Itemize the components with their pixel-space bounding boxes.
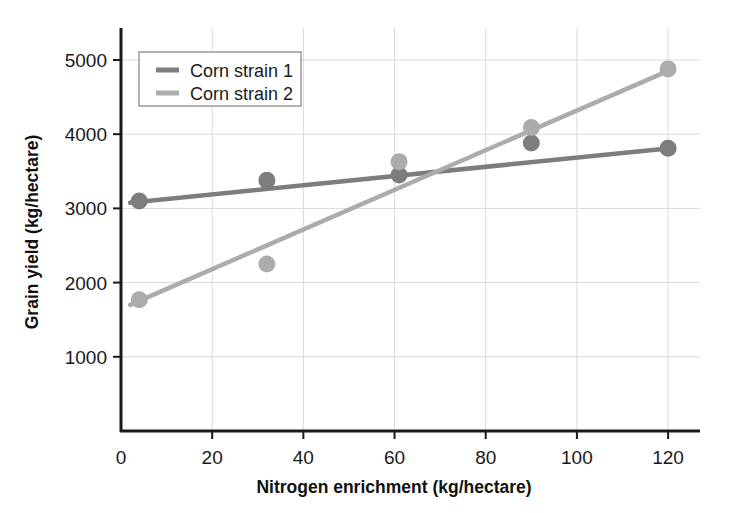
scatter-plot-svg: 10002000300040005000 020406080100120 Gra…	[0, 0, 735, 513]
chart-legend: Corn strain 1 Corn strain 2	[139, 52, 301, 106]
data-point-corn-strain-1	[258, 172, 275, 189]
y-tick-label: 3000	[65, 198, 107, 219]
y-tick-labels: 10002000300040005000	[65, 50, 107, 368]
y-tick-label: 4000	[65, 124, 107, 145]
data-point-corn-strain-2	[131, 291, 148, 308]
x-tick-label: 60	[384, 447, 405, 468]
y-tick-label: 1000	[65, 347, 107, 368]
data-point-corn-strain-2	[523, 119, 540, 136]
x-tick-label: 120	[652, 447, 684, 468]
chart-figure: 10002000300040005000 020406080100120 Gra…	[0, 0, 735, 513]
x-tick-label: 40	[293, 447, 314, 468]
data-point-corn-strain-1	[131, 192, 148, 209]
x-tick-label: 80	[475, 447, 496, 468]
data-point-corn-strain-2	[258, 256, 275, 273]
data-point-corn-strain-2	[391, 153, 408, 170]
x-tick-label: 100	[561, 447, 593, 468]
y-axis-title: Grain yield (kg/hectare)	[22, 135, 42, 330]
x-tick-label: 0	[116, 447, 127, 468]
y-tick-label: 2000	[65, 273, 107, 294]
data-point-corn-strain-1	[660, 140, 677, 157]
data-point-corn-strain-1	[523, 135, 540, 152]
data-point-corn-strain-2	[660, 60, 677, 77]
legend-label-corn-strain-1: Corn strain 1	[190, 61, 293, 81]
legend-label-corn-strain-2: Corn strain 2	[190, 84, 293, 104]
x-tick-label: 20	[202, 447, 223, 468]
x-axis-title: Nitrogen enrichment (kg/hectare)	[256, 477, 531, 497]
x-tick-labels: 020406080100120	[116, 447, 684, 468]
y-tick-label: 5000	[65, 50, 107, 71]
